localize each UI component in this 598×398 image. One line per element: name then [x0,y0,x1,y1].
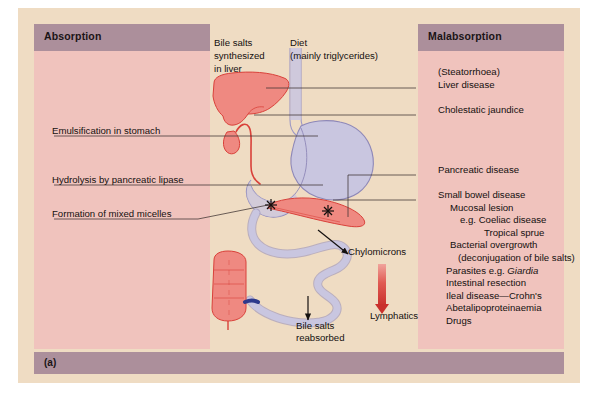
ileocaecal-junction [245,301,258,303]
lymphatics-arrow [375,264,389,314]
label-mixed-micelles: Formation of mixed micelles [52,208,171,220]
cause-bacterial-overgrowth: Bacterial overgrowth [438,239,537,250]
label-pancreatic-disease: Pancreatic disease [438,164,519,176]
label-cholestatic-jaundice: Cholestatic jaundice [438,104,524,116]
cause-coeliac-disease: e.g. Coeliac disease [438,214,546,225]
bile-duct [236,124,260,184]
cause-drugs: Drugs [438,315,472,326]
label-hydrolysis: Hydrolysis by pancreatic lipase [52,174,184,186]
label-emulsification: Emulsification in stomach [52,125,160,137]
gallbladder-organ [223,131,239,154]
label-bile-salts-reabsorbed: Bile salts reabsorbed [296,320,345,345]
cause-intestinal-resection: Intestinal resection [438,277,526,288]
stomach-organ [291,121,373,200]
parasite-species-name: Giardia [507,265,538,276]
figure-container: Absorption Malabsorption [18,8,580,383]
cause-parasites: Parasites e.g. Giardia [438,265,538,276]
figure-part-label: (a) [34,352,564,374]
cause-deconjugation: (deconjugation of bile salts) [438,252,575,263]
liver-organ [213,72,289,125]
label-chylomicrons: Chylomicrons [348,246,406,258]
cause-ileal-disease: Ileal disease—Crohn's [438,290,542,301]
cause-abetalipoproteinaemia: Abetalipoproteinaemia [438,302,541,313]
label-diet: Diet (mainly triglycerides) [290,36,378,62]
label-liver-disease: (Steatorrhoea) Liver disease [438,66,500,91]
label-bile-salts-synthesized: Bile salts synthesized in liver [214,36,265,75]
label-lymphatics: Lymphatics [370,310,418,322]
label-small-bowel-disease-group: Small bowel diseaseMucosal lesione.g. Co… [438,189,575,328]
cause-mucosal-lesion: Mucosal lesion [438,202,513,213]
label-small-bowel-disease: Small bowel disease [438,189,525,200]
cause-tropical-sprue: Tropical sprue [438,227,544,238]
